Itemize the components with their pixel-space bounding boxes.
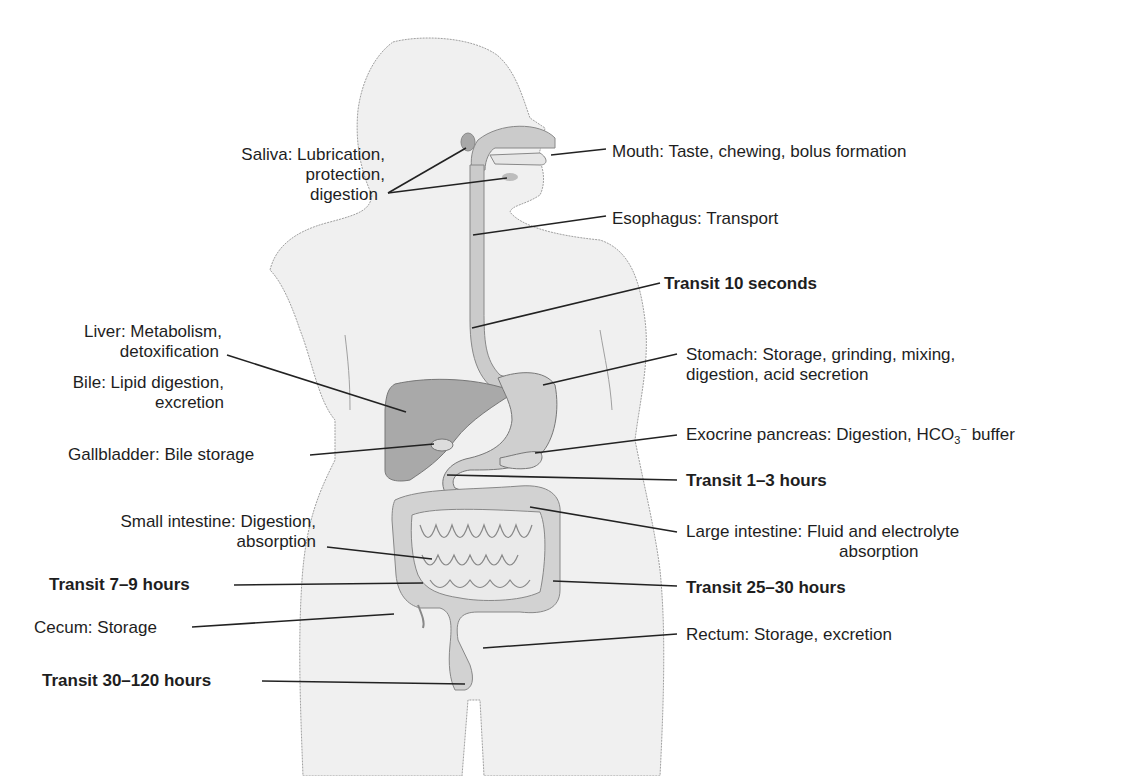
label-bile: Bile: Lipid digestion, excretion bbox=[73, 373, 224, 413]
label-esophagus: Esophagus: Transport bbox=[612, 209, 778, 229]
label-text: Transit 1–3 hours bbox=[686, 471, 827, 491]
label-cecum: Cecum: Storage bbox=[34, 618, 157, 638]
label-small-intestine: Small intestine: Digestion, absorption bbox=[120, 512, 316, 552]
label-transit-total: Transit 30–120 hours bbox=[42, 671, 211, 691]
label-transit-esophagus: Transit 10 seconds bbox=[664, 274, 817, 294]
label-text: Saliva: Lubrication, bbox=[241, 145, 385, 165]
label-text: Transit 10 seconds bbox=[664, 274, 817, 294]
label-large-intestine: Large intestine: Fluid and electrolyte a… bbox=[686, 522, 959, 562]
label-stomach: Stomach: Storage, grinding, mixing, dige… bbox=[686, 345, 955, 385]
label-text: Gallbladder: Bile storage bbox=[68, 445, 254, 465]
label-text: Cecum: Storage bbox=[34, 618, 157, 638]
label-text: detoxification bbox=[84, 342, 219, 362]
label-text: absorption bbox=[120, 532, 316, 552]
label-saliva: Saliva: Lubrication, protection, digesti… bbox=[241, 145, 385, 205]
gallbladder bbox=[431, 439, 453, 451]
label-text: Bile: Lipid digestion, bbox=[73, 373, 224, 393]
label-transit-stomach: Transit 1–3 hours bbox=[686, 471, 827, 491]
label-text: Transit 30–120 hours bbox=[42, 671, 211, 691]
label-text: Exocrine pancreas: Digestion, HCO3− buff… bbox=[686, 425, 1015, 444]
label-text: Liver: Metabolism, bbox=[84, 322, 222, 342]
label-text: Stomach: Storage, grinding, mixing, bbox=[686, 345, 955, 365]
label-pancreas: Exocrine pancreas: Digestion, HCO3− buff… bbox=[686, 425, 1015, 445]
label-text: Esophagus: Transport bbox=[612, 209, 778, 229]
label-text: Transit 25–30 hours bbox=[686, 578, 846, 598]
label-mouth: Mouth: Taste, chewing, bolus formation bbox=[612, 142, 907, 162]
label-text: Mouth: Taste, chewing, bolus formation bbox=[612, 142, 907, 162]
label-text: excretion bbox=[73, 393, 224, 413]
label-rectum: Rectum: Storage, excretion bbox=[686, 625, 892, 645]
label-text: digestion, acid secretion bbox=[686, 365, 955, 385]
label-text: protection, bbox=[241, 165, 385, 185]
label-liver: Liver: Metabolism, detoxification bbox=[84, 322, 222, 362]
label-transit-small-intestine: Transit 7–9 hours bbox=[49, 575, 190, 595]
label-text: Small intestine: Digestion, bbox=[120, 512, 316, 532]
label-text: Large intestine: Fluid and electrolyte bbox=[686, 522, 959, 542]
label-transit-large-intestine: Transit 25–30 hours bbox=[686, 578, 846, 598]
label-text: Transit 7–9 hours bbox=[49, 575, 190, 595]
label-text: Rectum: Storage, excretion bbox=[686, 625, 892, 645]
label-text: absorption bbox=[686, 542, 959, 562]
label-gallbladder: Gallbladder: Bile storage bbox=[68, 445, 254, 465]
label-text: digestion bbox=[241, 185, 378, 205]
